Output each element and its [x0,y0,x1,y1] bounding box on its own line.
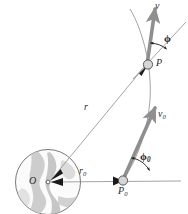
label-radius-r0-subscript: 0 [83,170,86,177]
label-velocity-v: v [155,1,159,11]
label-origin-O: O [29,176,36,186]
velocity-vector-v0 [123,108,156,181]
point-marker-P0 [118,176,127,185]
label-radius-r0: r0 [79,166,86,177]
label-point-P0-subscript: 0 [124,190,127,197]
label-velocity-v0-subscript: 0 [162,113,165,120]
label-point-P: P [156,58,162,68]
label-radius-r: r [84,102,88,112]
label-angle-phi0-base: ϕ [140,150,147,162]
figure-container: v ϕ P v0 r ϕ0 r0 O P0 [0,0,188,214]
point-marker-P [143,60,152,69]
horizon-reference-line-at-P [133,22,186,79]
label-velocity-v0: v0 [158,109,166,120]
label-angle-phi0-subscript: 0 [147,156,151,164]
label-angle-phi: ϕ [164,33,171,44]
label-angle-phi0: ϕ0 [140,151,151,164]
label-point-P0: P0 [118,186,128,197]
